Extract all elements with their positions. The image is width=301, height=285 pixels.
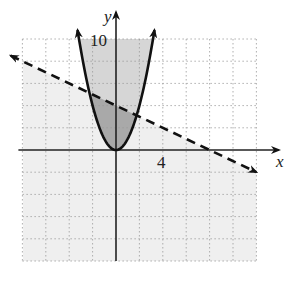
y-axis-label: y — [102, 7, 112, 26]
graph: y 10 4 x — [0, 0, 301, 285]
x-axis-label: x — [275, 152, 284, 171]
y-tick-label-10: 10 — [90, 31, 107, 50]
x-tick-label-4: 4 — [157, 153, 166, 172]
